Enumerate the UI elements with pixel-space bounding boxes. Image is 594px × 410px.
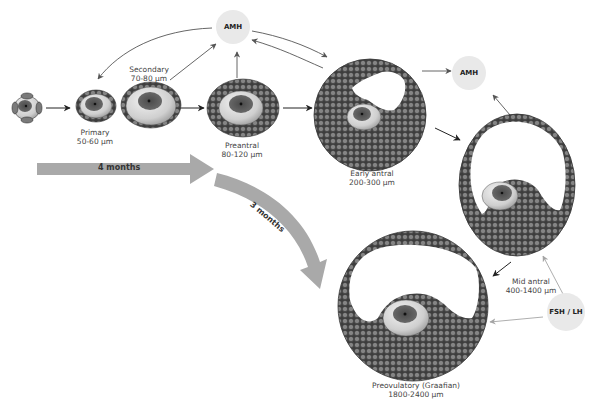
follicle-development-diagram: AMH AMH FSH / LH Primary 50-60 µm Second…	[0, 0, 594, 410]
early-antral-follicle	[314, 59, 426, 171]
secondary-label: Secondary 70-80 µm	[124, 65, 174, 83]
preantral-follicle	[207, 79, 279, 137]
fsh-lh-label: FSH / LH	[549, 308, 582, 316]
duration-4-months: 4 months	[98, 163, 140, 172]
early-antral-label: Early antral 200-300 µm	[342, 169, 402, 187]
amh-right-circle: AMH	[452, 56, 486, 90]
primordial-follicle	[12, 93, 42, 123]
preantral-label: Preantral 80-120 µm	[214, 141, 270, 159]
amh-top-circle: AMH	[216, 10, 250, 44]
secondary-follicle	[121, 82, 181, 128]
diagram-canvas	[0, 0, 594, 410]
mid-antral-label: Mid antral 400-1400 µm	[496, 277, 566, 295]
fsh-lh-circle: FSH / LH	[547, 293, 585, 331]
amh-right-label: AMH	[460, 69, 478, 77]
primary-follicle	[76, 90, 116, 122]
timeline-arrow-3-months	[214, 173, 327, 289]
preovulatory-label: Preovulatory (Graafian) 1800-2400 µm	[366, 381, 466, 399]
amh-top-label: AMH	[224, 23, 242, 31]
mid-antral-follicle	[459, 114, 575, 256]
preovulatory-follicle	[338, 231, 488, 381]
primary-label: Primary 50-60 µm	[70, 128, 120, 146]
